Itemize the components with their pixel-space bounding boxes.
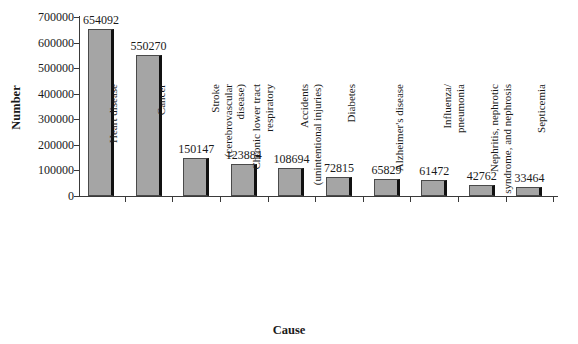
y-axis-tick-mark [74, 43, 79, 44]
x-axis-category-label: Alzheimer's disease [393, 84, 406, 204]
y-axis-tick-mark [74, 119, 79, 120]
x-axis-tick-mark [506, 197, 507, 202]
y-axis-tick-mark [74, 94, 79, 95]
y-axis-tick-mark [74, 17, 79, 18]
y-axis-tick-mark [74, 170, 79, 171]
y-axis-tick-label: 400000 [16, 88, 74, 100]
y-axis-tick-label: 500000 [16, 62, 74, 74]
x-axis-tick-mark [410, 197, 411, 202]
y-axis-tick-label: 200000 [16, 139, 74, 151]
x-axis-tick-mark [125, 197, 126, 202]
bar [183, 158, 209, 196]
x-axis-category-label: Nephritis, nephrotic syndrome, and nephr… [488, 84, 513, 204]
x-axis-tick-mark [172, 197, 173, 202]
x-axis-category-label: Heart disease [107, 84, 120, 204]
x-axis-category-label: Septicemia [535, 84, 548, 204]
bar-value-label: 550270 [109, 40, 189, 53]
y-axis-line [79, 16, 80, 197]
y-axis-tick-label: 0 [16, 190, 74, 202]
x-axis-tick-mark [220, 197, 221, 202]
y-axis-tick-mark [74, 68, 79, 69]
bar-value-label: 33464 [489, 172, 569, 185]
x-axis-category-label: Influenza/ pneumonia [441, 84, 466, 204]
x-axis-tick-mark [458, 197, 459, 202]
y-axis-tick-label: 300000 [16, 113, 74, 125]
y-axis-tick-mark [74, 196, 79, 197]
x-axis-tick-mark [268, 197, 269, 202]
y-axis-tick-mark [74, 145, 79, 146]
x-axis-title: Cause [0, 323, 578, 338]
y-axis-tick-label: 600000 [16, 37, 74, 49]
x-axis-category-label: Chronic lower tract respiratory [250, 84, 275, 204]
bar-chart: Number 700000600000500000400000300000200… [0, 0, 578, 344]
x-axis-tick-mark [315, 197, 316, 202]
y-axis-tick-label: 100000 [16, 164, 74, 176]
x-axis-tick-mark [363, 197, 364, 202]
x-axis-category-label: Diabetes [345, 84, 358, 204]
x-axis-category-label: Accidents (unintentional injuries) [298, 84, 323, 204]
bar-value-label: 654092 [61, 14, 141, 27]
x-axis-tick-mark [553, 197, 554, 202]
y-axis-tick-labels: 7000006000005000004000003000002000001000… [16, 0, 74, 210]
